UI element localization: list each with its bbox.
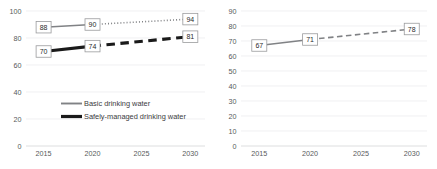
x-axis-ticks: 2015202020252030 [251,149,419,158]
gridlines [26,11,205,146]
chart-legend: Basic drinking waterSafely-managed drink… [61,99,186,121]
legend-label: Basic drinking water [84,99,151,108]
chart-panel-left: 0204060801002015202020252030889094707481… [0,0,215,169]
gridlines [241,11,427,146]
y-tick-label: 80 [229,22,237,31]
data-label-value: 90 [89,21,97,28]
y-tick-label: 20 [229,112,237,121]
data-label-value: 70 [40,48,48,55]
y-tick-label: 50 [229,67,237,76]
series-0 [259,29,411,46]
x-tick-label: 2015 [36,149,52,158]
data-label-value: 78 [408,26,416,33]
data-label-value: 81 [186,33,194,40]
data-label: 74 [85,40,100,52]
chart-figure: 0204060801002015202020252030889094707481… [0,0,437,169]
y-tick-label: 80 [14,34,22,43]
data-label: 90 [85,19,100,31]
x-tick-label: 2030 [182,149,198,158]
y-tick-label: 60 [229,52,237,61]
series-1 [44,37,191,52]
data-label: 67 [252,40,267,52]
data-label-value: 67 [255,42,263,49]
data-label: 70 [36,46,51,58]
data-label-value: 88 [40,24,48,31]
chart-canvas-left: 0204060801002015202020252030889094707481… [0,0,215,169]
chart-panel-right: 0102030405060708090201520202025203067717… [215,0,437,169]
data-label-value: 71 [306,36,314,43]
data-label: 81 [183,31,198,43]
y-axis-ticks: 0102030405060708090 [229,7,237,151]
y-tick-label: 70 [229,37,237,46]
y-tick-label: 10 [229,127,237,136]
y-tick-label: 0 [18,142,22,151]
series-0 [44,19,191,27]
data-label: 78 [404,23,419,35]
y-tick-label: 90 [229,7,237,16]
data-label: 88 [36,21,51,33]
legend-label: Safely-managed drinking water [84,112,186,121]
data-label: 71 [303,34,318,46]
y-tick-label: 30 [229,97,237,106]
x-tick-label: 2015 [251,149,267,158]
x-tick-label: 2020 [85,149,101,158]
y-tick-label: 0 [233,142,237,151]
data-label-value: 94 [186,16,194,23]
data-labels-series-1: 707481 [36,31,198,57]
data-label: 94 [183,13,198,25]
x-tick-label: 2025 [133,149,149,158]
y-tick-label: 20 [14,115,22,124]
data-label-value: 74 [89,43,97,50]
series-line-projected [93,19,191,24]
chart-canvas-right: 0102030405060708090201520202025203067717… [215,0,437,169]
x-tick-label: 2020 [302,149,318,158]
y-tick-label: 40 [229,82,237,91]
y-axis-ticks: 020406080100 [10,7,22,151]
x-axis-ticks: 2015202020252030 [36,149,199,158]
x-tick-label: 2025 [353,149,369,158]
y-tick-label: 60 [14,61,22,70]
data-labels-series-0: 889094 [36,13,198,33]
series-line-projected [310,29,412,40]
y-tick-label: 40 [14,88,22,97]
x-tick-label: 2030 [404,149,420,158]
y-tick-label: 100 [10,7,22,16]
data-labels-series-0: 677178 [252,23,419,51]
